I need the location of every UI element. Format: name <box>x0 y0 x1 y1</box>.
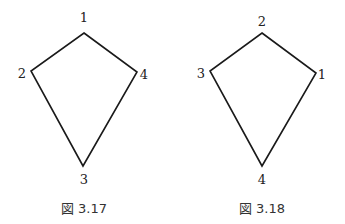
vertex-label-1: 1 <box>80 10 88 25</box>
figure-3-17: 1 2 3 4 図 3.17 <box>18 10 148 216</box>
figure-3-18: 2 3 1 4 図 3.18 <box>197 14 326 216</box>
vertex-label-3: 3 <box>80 172 88 187</box>
diagram-canvas: 1 2 3 4 図 3.17 2 3 1 4 図 3.18 <box>0 0 345 224</box>
vertex-label-1: 1 <box>318 67 326 82</box>
vertex-label-4: 4 <box>140 67 148 82</box>
vertex-label-2: 2 <box>258 14 266 29</box>
figure-caption: 図 3.18 <box>239 201 285 216</box>
vertex-label-2: 2 <box>18 66 26 81</box>
kite-shape-3-18 <box>210 33 316 166</box>
vertex-label-3: 3 <box>197 66 205 81</box>
figure-caption: 図 3.17 <box>61 201 107 216</box>
vertex-label-4: 4 <box>258 172 266 187</box>
kite-shape-3-17 <box>31 33 137 166</box>
